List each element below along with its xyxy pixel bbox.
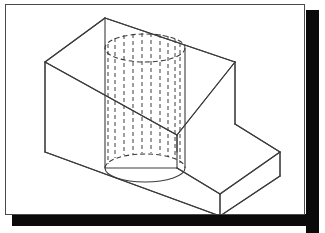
frame-drop-shadow-bottom: [12, 214, 319, 226]
block-step-portion: [105, 124, 280, 215]
edge-top-face-front-right: [177, 62, 235, 135]
block-bottom-edges: [45, 152, 280, 215]
screenshot-root: [0, 0, 325, 233]
edge-top-face-front-left: [45, 62, 177, 135]
isometric-drawing: [5, 4, 305, 215]
frame-drop-shadow-right: [306, 10, 319, 233]
edge-step-top-left: [177, 168, 220, 194]
edge-bottom-front-right: [220, 176, 280, 215]
cylinder-hidden-generators: [108, 33, 180, 164]
edge-step-top-right: [235, 124, 280, 152]
cylinder-top-ellipse: [105, 34, 185, 62]
edge-top-face-back-right: [105, 18, 235, 62]
edge-top-face-back-left: [45, 18, 105, 62]
edges-from-data: [45, 18, 280, 215]
cylinder-bottom-ellipse-visible-half: [105, 168, 185, 182]
edge-bottom-front-left: [45, 152, 220, 215]
cylinder-bottom-ellipse-hidden-half: [105, 154, 185, 168]
edge-step-top-front: [220, 152, 280, 194]
